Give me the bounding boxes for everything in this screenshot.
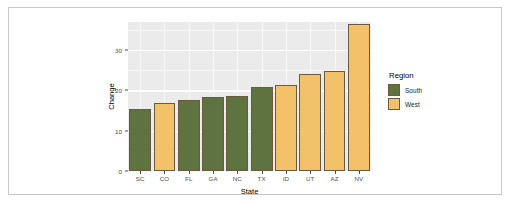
bars-layer [128,22,371,171]
bar-id [275,85,297,171]
legend: Region SouthWest [388,71,458,111]
x-tick-mark [286,171,287,174]
x-tick-mark [140,171,141,174]
bar-ga [202,97,224,172]
y-axis-title: Change [106,22,118,171]
legend-title: Region [388,71,458,80]
x-axis: SCCOFLGANCTXIDUTAZNV [128,171,371,187]
bar-ut [299,74,321,171]
legend-item-south: South [388,83,458,97]
x-tick-mark [164,171,165,174]
legend-swatch-south [388,84,400,96]
y-tick-mark [125,50,128,51]
y-tick-label: 0 [118,168,122,175]
bar-tx [251,87,273,171]
bar-nv [348,24,370,171]
figure-frame: 0102030 Change SCCOFLGANCTXIDUTAZNV Stat… [8,7,502,195]
x-tick-label-tx: TX [258,175,266,182]
x-tick-label-ga: GA [208,175,217,182]
x-axis-title: State [128,187,371,196]
legend-label-west: West [405,101,420,108]
bar-fl [178,100,200,171]
x-tick-mark [189,171,190,174]
bar-nc [226,96,248,171]
x-tick-label-az: AZ [330,175,338,182]
y-tick-mark [125,90,128,91]
x-tick-mark [310,171,311,174]
x-tick-label-id: ID [283,175,289,182]
bar-sc [129,109,151,171]
x-tick-mark [335,171,336,174]
bar-az [324,71,346,171]
x-tick-label-ut: UT [306,175,314,182]
legend-item-west: West [388,97,458,111]
x-tick-label-nv: NV [354,175,363,182]
chart-screenshot: 0102030 Change SCCOFLGANCTXIDUTAZNV Stat… [0,0,511,204]
x-tick-label-co: CO [160,175,169,182]
x-tick-label-sc: SC [136,175,145,182]
x-tick-mark [262,171,263,174]
x-tick-label-nc: NC [233,175,242,182]
legend-items: SouthWest [388,83,458,111]
x-tick-mark [237,171,238,174]
legend-label-south: South [405,87,422,94]
plot-panel [128,22,371,171]
x-tick-label-fl: FL [185,175,192,182]
legend-swatch-west [388,98,400,110]
y-tick-mark [125,130,128,131]
x-tick-mark [213,171,214,174]
x-tick-mark [359,171,360,174]
bar-co [154,103,176,171]
